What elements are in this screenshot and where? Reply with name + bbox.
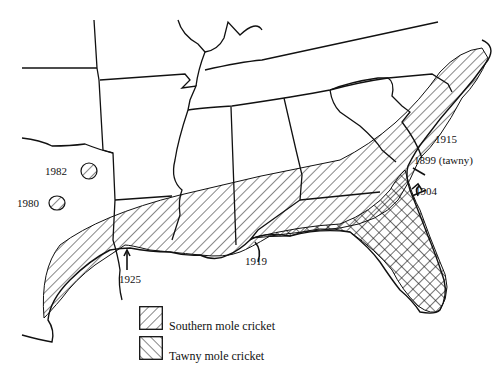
label-1980: 1980 [17,197,39,209]
back-hatch-swatch-icon [139,336,163,360]
legend-item-southern: Southern mole cricket [139,306,275,330]
record-1980-marker [49,196,65,210]
label-1925: 1925 [119,273,141,285]
label-1915: 1915 [435,133,457,145]
label-1904: 1904 [415,185,437,197]
legend-label-southern: Southern mole cricket [169,320,275,332]
legend-item-tawny: Tawny mole cricket [139,336,264,360]
legend-label-tawny: Tawny mole cricket [169,350,264,362]
label-1919: 1919 [245,255,267,267]
record-1982-marker [81,163,97,179]
label-1982: 1982 [45,165,67,177]
label-1899-tawny: 1899 (tawny) [414,154,473,166]
forward-hatch-swatch-icon [139,306,163,330]
